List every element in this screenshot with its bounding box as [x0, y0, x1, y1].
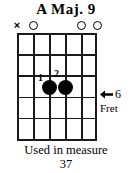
finger-dot-2: [58, 80, 73, 95]
fret-line-3: [17, 97, 97, 99]
chord-diagram-card: A Maj. 9 × 1 2 6: [0, 0, 132, 173]
string-marker-muted-1: ×: [11, 19, 24, 32]
fret-indicator-row: 6: [100, 88, 132, 100]
fret-word-label: Fret: [100, 102, 132, 114]
string-marker-open-6: [91, 19, 104, 32]
chord-name-title: A Maj. 9: [0, 1, 132, 17]
fret-position-indicator: 6 Fret: [100, 88, 132, 114]
fret-line-4: [17, 118, 97, 120]
string-line-5: [81, 33, 83, 141]
string-marker-open-5: [75, 19, 88, 32]
finger-number-2: 2: [54, 69, 59, 79]
caption-line-2: 37: [0, 157, 132, 171]
string-line-1: [17, 33, 19, 141]
left-arrow-icon: [100, 90, 113, 99]
fret-line-1: [17, 54, 97, 56]
finger-number-1: 1: [38, 73, 43, 83]
finger-dot-1: [42, 80, 57, 95]
string-line-2: [33, 33, 35, 141]
fret-number-label: 6: [115, 88, 121, 100]
fretboard-grid: 1 2: [17, 33, 97, 141]
string-line-6: [95, 33, 97, 141]
string-marker-open-2: [27, 19, 40, 32]
caption-line-1: Used in measure: [0, 143, 132, 157]
fret-line-5: [17, 139, 97, 141]
fret-line-nut: [17, 33, 97, 35]
caption: Used in measure 37: [0, 143, 132, 171]
string-markers-row: ×: [0, 19, 132, 32]
